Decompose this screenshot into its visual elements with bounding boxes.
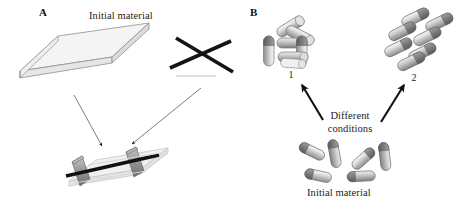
panel-b-initial-material-region xyxy=(296,136,414,184)
arrow-rods-to-composite xyxy=(132,88,201,144)
panel-a-plate-region xyxy=(18,20,153,82)
panel-a-arrows xyxy=(74,88,201,146)
figure-canvas: A B Initial material Different condition… xyxy=(0,0,465,209)
panel-b-arrows xyxy=(302,85,404,122)
arrow-to-structure-1 xyxy=(302,85,323,120)
panel-b-structure-1-region xyxy=(268,16,320,72)
panel-a-crossed-rods-region xyxy=(166,34,238,80)
panel-a-composite-region xyxy=(62,144,172,190)
arrow-to-structure-2 xyxy=(381,85,404,122)
panel-b-structure-2-region xyxy=(378,14,452,76)
arrow-plate-to-composite xyxy=(74,95,102,146)
